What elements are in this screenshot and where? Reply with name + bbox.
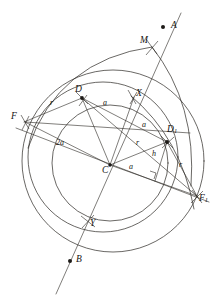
- label-point-a: A: [171, 21, 177, 31]
- label-point-d1-subscript: 1: [174, 127, 177, 134]
- label-segment-r-inner: r: [136, 139, 139, 147]
- label-point-m: M: [140, 36, 148, 46]
- label-segment-2a: 2a: [56, 139, 64, 147]
- label-point-c: C: [102, 166, 108, 176]
- line-c-f1: [110, 165, 197, 196]
- line-f-c: [25, 122, 110, 165]
- label-point-d1: D1: [167, 125, 177, 135]
- label-segment-r-left: r: [50, 99, 53, 107]
- label-point-d: D: [75, 85, 82, 95]
- geometry-figure: A B M X Y D D1 F F1 C r 2a a a a r h r: [0, 0, 221, 305]
- arc-through-m-right: [152, 47, 192, 186]
- point-a-dot: [161, 25, 165, 29]
- label-point-x: X: [136, 89, 142, 99]
- inner-circle: [52, 105, 168, 221]
- label-segment-a-middle: a: [142, 121, 146, 129]
- label-point-b: B: [76, 255, 82, 265]
- point-dots-group: [68, 25, 169, 263]
- line-c-x: [110, 97, 134, 165]
- label-point-d1-base: D: [167, 124, 174, 134]
- point-d1-dot: [165, 140, 169, 144]
- label-point-y: Y: [90, 219, 95, 229]
- right-angle-marker: [150, 171, 156, 179]
- label-segment-a-upper: a: [103, 99, 107, 107]
- label-point-f: F: [11, 112, 17, 122]
- point-b-dot: [68, 259, 72, 263]
- label-segment-a-lower: a: [129, 163, 133, 171]
- point-d-dot: [80, 96, 84, 100]
- label-point-f1-subscript: 1: [205, 196, 208, 203]
- figure-canvas: [0, 0, 221, 305]
- label-point-f1: F1: [199, 194, 208, 204]
- line-f-d1-extended: [25, 122, 190, 133]
- label-segment-h: h: [152, 150, 156, 158]
- label-segment-r-right: r: [179, 161, 182, 169]
- line-d-f1: [82, 98, 198, 197]
- point-c-dot: [108, 163, 111, 166]
